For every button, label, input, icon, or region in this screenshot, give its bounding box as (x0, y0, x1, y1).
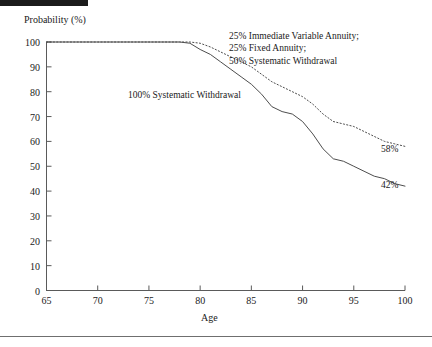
y-axis-tick-label: 20 (8, 235, 40, 246)
y-axis-tick-label: 90 (8, 61, 40, 72)
x-axis-title: Age (201, 312, 218, 323)
y-axis-tick-label: 80 (8, 86, 40, 97)
annotation-mixed-strategy: 25% Immediate Variable Annuity; 25% Fixe… (229, 30, 359, 67)
endpoint-label-solid-series: 42% (381, 179, 398, 191)
x-axis-ticks (47, 286, 406, 291)
annotation-mixed-line-2: 25% Fixed Annuity; (229, 42, 359, 54)
x-axis-tick-label: 80 (195, 295, 205, 306)
y-axis-tick-label: 40 (8, 186, 40, 197)
x-axis-tick-label: 70 (93, 295, 103, 306)
y-axis-tick-label: 10 (8, 260, 40, 271)
x-axis-tick-label: 90 (298, 295, 308, 306)
annotation-mixed-line-3: 50% Systematic Withdrawal (229, 55, 359, 67)
y-axis-tick-label: 100 (8, 37, 40, 48)
y-axis-ticks (47, 42, 52, 291)
x-axis-tick-label: 100 (398, 295, 413, 306)
y-axis-tick-label: 60 (8, 136, 40, 147)
x-axis-tick-label: 95 (349, 295, 359, 306)
x-axis-tick-label: 75 (144, 295, 154, 306)
y-axis-tick-label: 0 (8, 285, 40, 296)
annotation-systematic-withdrawal: 100% Systematic Withdrawal (128, 89, 241, 101)
x-axis-tick-label: 85 (246, 295, 256, 306)
x-axis-tick-label: 65 (42, 295, 52, 306)
y-axis-title: Probability (%) (24, 14, 86, 25)
chart-figure: Probability (%) Age 10090807060504030201… (0, 0, 432, 347)
endpoint-label-dotted-series: 58% (381, 143, 398, 155)
annotation-mixed-line-1: 25% Immediate Variable Annuity; (229, 30, 359, 42)
plot-area (0, 0, 432, 347)
y-axis-tick-label: 70 (8, 111, 40, 122)
y-axis-tick-label: 30 (8, 210, 40, 221)
y-axis-tick-label: 50 (8, 161, 40, 172)
